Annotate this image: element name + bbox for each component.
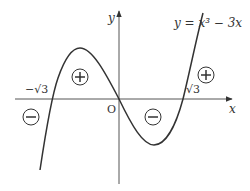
root-pos-sqrt3-label: √3 bbox=[186, 83, 200, 96]
sign-plus-left bbox=[72, 69, 88, 85]
root-neg-sqrt3-label: −√3 bbox=[25, 83, 48, 96]
y-axis-label: y bbox=[107, 11, 115, 25]
cubic-curve bbox=[40, 13, 203, 170]
origin-label: O bbox=[107, 103, 116, 116]
function-label: y = x³ − 3x bbox=[173, 16, 242, 30]
x-axis-label: x bbox=[229, 102, 236, 116]
sign-minus-left bbox=[23, 109, 39, 125]
sign-minus-right bbox=[145, 109, 161, 125]
sign-plus-right bbox=[198, 67, 214, 83]
cubic-graph: y x O −√3 √3 y = x³ − 3x bbox=[0, 0, 250, 191]
